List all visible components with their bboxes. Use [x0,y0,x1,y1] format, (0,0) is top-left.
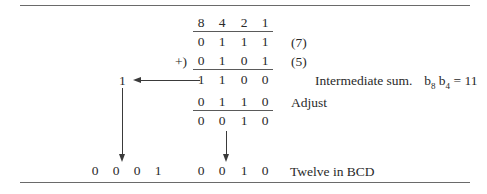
bottom-border-rule [20,182,470,183]
final-tens-digit-4: 1 [151,164,165,178]
adjust-digit-1: 0 [194,95,208,109]
result-digit-1: 0 [194,114,208,128]
addend2-digit-4: 1 [258,54,272,68]
weight-digit-4: 4 [215,16,229,30]
addend2-annotation: (5) [291,54,307,69]
intermediate-annotation-prefix: Intermediate sum. [315,73,412,88]
carry-left-arrow-shaft [140,80,200,81]
b8-subscript: 8 [431,81,436,91]
intermediate-annotation-equals: = 11 [453,73,477,88]
result-digit-4: 0 [258,114,272,128]
addend1-annotation: (7) [291,35,307,50]
result-down-arrow-head [223,154,229,162]
addend-underline [193,69,273,70]
adjust-digit-3: 1 [237,95,251,109]
addend2-digit-2: 1 [215,54,229,68]
intermediate-digit-2: 1 [215,73,229,87]
plus-operator: +) [175,54,187,69]
intermediate-digit-4: 0 [258,73,272,87]
weight-digit-8: 8 [194,16,208,30]
final-units-digit-2: 0 [215,164,229,178]
bcd-addition-figure: 8 4 2 1 0 1 1 1 (7) +) 0 1 0 1 (5) 1 1 1… [0,0,487,194]
adjust-digit-2: 1 [215,95,229,109]
final-units-digit-4: 0 [258,164,272,178]
adjust-digit-4: 0 [258,95,272,109]
addend1-digit-3: 1 [237,35,251,49]
carry-out-digit: 1 [119,73,126,88]
final-annotation: Twelve in BCD [290,164,375,179]
final-tens-digit-3: 0 [130,164,144,178]
final-units-digit-3: 1 [237,164,251,178]
final-units-digit-1: 0 [194,164,208,178]
addend1-digit-4: 1 [258,35,272,49]
weight-digit-2: 2 [237,16,251,30]
addend1-digit-1: 0 [194,35,208,49]
b4-variable: b4 [439,73,450,88]
result-digit-3: 1 [237,114,251,128]
top-border-rule [20,5,470,6]
addend2-digit-1: 0 [194,54,208,68]
result-down-arrow-shaft [226,131,227,155]
weight-digit-1: 1 [258,16,272,30]
final-tens-digit-2: 0 [109,164,123,178]
intermediate-annotation: Intermediate sum. b8 b4 = 11 [315,73,477,94]
adjust-underline [193,110,273,111]
addend2-digit-3: 0 [237,54,251,68]
intermediate-digit-3: 0 [237,73,251,87]
result-digit-2: 0 [215,114,229,128]
weights-underline [193,31,273,32]
carry-down-arrow-head [119,154,125,162]
addend1-digit-2: 1 [215,35,229,49]
carry-down-arrow-shaft [122,88,123,155]
b4-subscript: 4 [446,81,451,91]
b8-variable: b8 [424,73,435,88]
final-tens-digit-1: 0 [88,164,102,178]
adjust-annotation: Adjust [291,95,327,110]
carry-left-arrow-head [133,77,141,83]
